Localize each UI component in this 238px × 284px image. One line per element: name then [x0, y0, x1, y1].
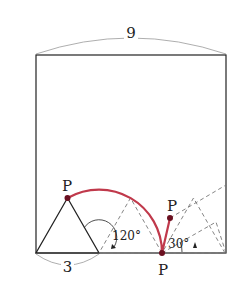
dashed-triangle-1: [99, 198, 162, 253]
width-label: 9: [126, 24, 136, 42]
point-p-bottom: [159, 250, 165, 256]
trace-path: [68, 190, 171, 253]
label-p-bottom: P: [158, 261, 168, 279]
point-p-start: [65, 195, 71, 201]
rectangle: [36, 55, 226, 253]
side-label: 3: [63, 258, 73, 276]
label-p-start: P: [62, 177, 72, 195]
label-p-end: P: [167, 197, 177, 215]
angle-label-120: 120°: [112, 229, 141, 243]
angle-label-30: 30°: [168, 237, 189, 251]
geometry-diagram: 9 3 120° 30° P P P: [0, 0, 238, 284]
point-p-end: [167, 215, 173, 221]
equilateral-triangle: [36, 198, 99, 253]
